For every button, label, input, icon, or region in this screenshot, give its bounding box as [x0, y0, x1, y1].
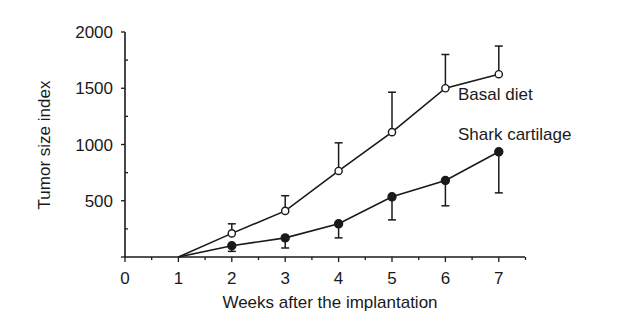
open-circle-marker: [388, 129, 395, 136]
y-tick-label: 500: [85, 192, 113, 211]
x-axis-label: Weeks after the implantation: [222, 293, 437, 312]
x-tick-label: 7: [494, 269, 503, 288]
tick-labels: 01234567500100015002000: [75, 23, 503, 288]
series-group: [178, 46, 502, 257]
open-circle-marker: [282, 207, 289, 214]
filled-circle-marker: [281, 234, 289, 242]
y-tick-label: 2000: [75, 23, 113, 42]
x-tick-label: 1: [174, 269, 183, 288]
legend-label-shark-cartilage: Shark cartilage: [458, 125, 571, 144]
open-circle-marker: [495, 71, 502, 78]
y-axis-label: Tumor size index: [35, 80, 54, 209]
filled-circle-marker: [228, 242, 236, 250]
open-circle-marker: [228, 230, 235, 237]
legend-label-basal-diet: Basal diet: [458, 85, 533, 104]
filled-circle-marker: [495, 148, 503, 156]
x-tick-label: 0: [120, 269, 129, 288]
x-tick-label: 6: [441, 269, 450, 288]
y-tick-label: 1000: [75, 136, 113, 155]
x-tick-label: 3: [280, 269, 289, 288]
filled-circle-marker: [441, 177, 449, 185]
x-tick-label: 4: [334, 269, 343, 288]
open-circle-marker: [442, 85, 449, 92]
y-tick-label: 1500: [75, 79, 113, 98]
filled-circle-marker: [388, 193, 396, 201]
x-tick-label: 2: [227, 269, 236, 288]
series-shark-cartilage: [178, 148, 502, 257]
x-tick-label: 5: [387, 269, 396, 288]
filled-circle-marker: [335, 220, 343, 228]
open-circle-marker: [335, 167, 342, 174]
line-chart: 01234567500100015002000 Tumor size index…: [0, 0, 629, 336]
